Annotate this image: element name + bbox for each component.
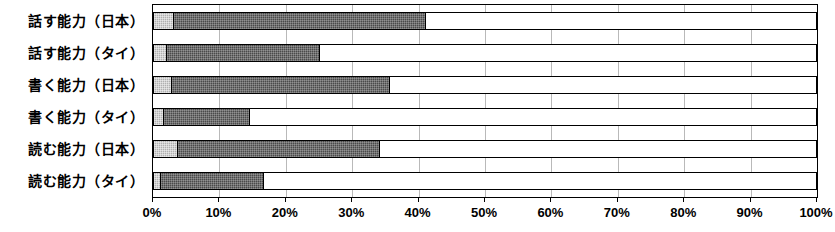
stacked-bar[interactable]	[153, 108, 817, 126]
tick-mark	[351, 197, 352, 202]
bar-row	[153, 140, 817, 158]
tick-label: 0%	[143, 205, 162, 220]
category-label: 書く能力（日本）	[0, 74, 144, 94]
bar-segment-segment-3	[379, 140, 817, 158]
gridline	[352, 5, 353, 197]
tick-label: 80%	[670, 205, 696, 220]
tick-mark	[750, 197, 751, 202]
tick-label: 40%	[405, 205, 431, 220]
bar-segment-segment-3	[263, 172, 817, 190]
gridline	[551, 5, 552, 197]
bar-segment-segment-2	[166, 44, 319, 62]
tick-mark	[418, 197, 419, 202]
stacked-bar[interactable]	[153, 44, 817, 62]
tick-mark	[152, 197, 153, 202]
tick-label: 20%	[272, 205, 298, 220]
tick-mark	[816, 197, 817, 202]
bar-segment-segment-1	[153, 172, 160, 190]
tick-label: 90%	[737, 205, 763, 220]
bar-segment-segment-1	[153, 44, 166, 62]
gridline	[485, 5, 486, 197]
bar-row	[153, 172, 817, 190]
category-label: 読む能力（タイ）	[0, 170, 144, 190]
gridline	[219, 5, 220, 197]
tick-mark	[484, 197, 485, 202]
bar-segment-segment-3	[425, 12, 817, 30]
gridline	[751, 5, 752, 197]
tick-label: 70%	[604, 205, 630, 220]
gridline	[684, 5, 685, 197]
bar-segment-segment-1	[153, 12, 173, 30]
bar-segment-segment-2	[163, 108, 249, 126]
bar-segment-segment-3	[389, 76, 817, 94]
gridline	[817, 5, 818, 197]
bar-segment-segment-2	[160, 172, 263, 190]
bar-segment-segment-2	[177, 140, 379, 158]
stacked-bar[interactable]	[153, 140, 817, 158]
gridline	[618, 5, 619, 197]
bar-segment-segment-1	[153, 108, 163, 126]
tick-mark	[550, 197, 551, 202]
tick-mark	[683, 197, 684, 202]
tick-label: 30%	[338, 205, 364, 220]
bar-segment-segment-2	[171, 76, 389, 94]
stacked-bar[interactable]	[153, 172, 817, 190]
gridline	[286, 5, 287, 197]
category-label: 書く能力（タイ）	[0, 106, 144, 126]
value-axis: 0%10%20%30%40%50%60%70%80%90%100%	[152, 197, 816, 231]
tick-label: 60%	[537, 205, 563, 220]
bar-segment-segment-2	[173, 12, 425, 30]
bar-row	[153, 44, 817, 62]
stacked-bar[interactable]	[153, 76, 817, 94]
bar-segment-segment-3	[319, 44, 817, 62]
tick-mark	[617, 197, 618, 202]
category-axis: 話す能力（日本）話す能力（タイ）書く能力（日本）書く能力（タイ）読む能力（日本）…	[0, 0, 148, 196]
bar-segment-segment-1	[153, 76, 171, 94]
category-label: 話す能力（日本）	[0, 10, 144, 30]
bar-row	[153, 108, 817, 126]
tick-label: 50%	[471, 205, 497, 220]
tick-mark	[218, 197, 219, 202]
bar-segment-segment-1	[153, 140, 177, 158]
tick-mark	[285, 197, 286, 202]
tick-label: 100%	[799, 205, 832, 220]
stacked-bar[interactable]	[153, 12, 817, 30]
plot-area	[152, 4, 818, 198]
category-label: 読む能力（日本）	[0, 138, 144, 158]
bar-row	[153, 12, 817, 30]
bar-segment-segment-3	[249, 108, 817, 126]
category-label: 話す能力（タイ）	[0, 42, 144, 62]
tick-label: 10%	[205, 205, 231, 220]
bar-chart: 話す能力（日本）話す能力（タイ）書く能力（日本）書く能力（タイ）読む能力（日本）…	[0, 0, 835, 232]
gridline	[419, 5, 420, 197]
bar-row	[153, 76, 817, 94]
